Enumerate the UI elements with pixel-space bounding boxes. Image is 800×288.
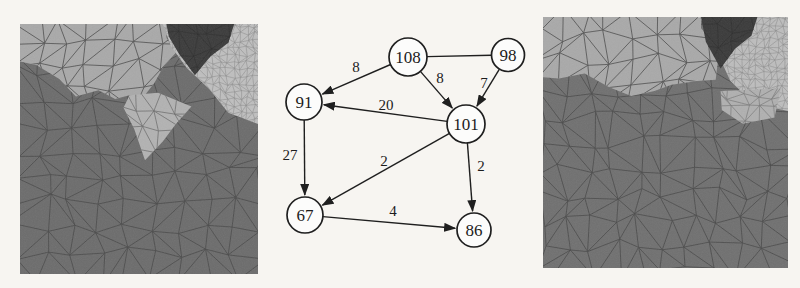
edge-weight-98-101: 7 [480, 75, 488, 91]
graph-node-label-91: 91 [296, 93, 313, 112]
graph-edge-101-67 [322, 133, 449, 205]
photo-grain-overlay [543, 17, 788, 268]
graph-node-label-67: 67 [297, 206, 315, 225]
right-mesh-image [543, 17, 788, 268]
edge-weight-101-86: 2 [477, 158, 485, 174]
graph-node-label-101: 101 [453, 115, 479, 134]
edge-weight-101-91: 20 [379, 97, 394, 113]
graph-edge-108-98 [427, 55, 492, 56]
edge-weight-67-86: 4 [389, 203, 397, 219]
edge-weight-101-67: 2 [380, 153, 388, 169]
graph-node-label-98: 98 [500, 46, 517, 65]
graph-edge-101-86 [467, 143, 472, 211]
graph-node-label-86: 86 [466, 221, 483, 240]
graph-node-label-108: 108 [395, 48, 421, 67]
edge-weight-108-101: 8 [436, 70, 444, 86]
graph-edge-91-67 [304, 120, 305, 195]
edge-weight-108-91: 8 [352, 59, 360, 75]
figure-canvas: 887202722410898911016786 [0, 0, 800, 288]
edge-weight-91-67: 27 [283, 147, 299, 163]
